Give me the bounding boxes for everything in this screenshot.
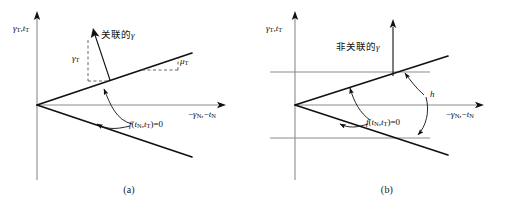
figure-container: γT,tT −γN,−tN 关联的γ γT μT f(tN,tT)=0 (a): [0, 0, 516, 215]
panel-b-graphic: [258, 0, 516, 215]
gamma-t-label-a: γT: [72, 54, 80, 64]
upper-yield-line-a: [37, 53, 192, 105]
yield-leader-upper-b: [350, 88, 370, 120]
non-associated-flow-label-b: 非关联的γ: [336, 42, 380, 52]
x-axis-label-a: −γN,−tN: [188, 110, 216, 120]
panel-b-caption: (b): [258, 184, 516, 195]
mu-t-label-a: μT: [180, 57, 189, 67]
upper-yield-line-b: [295, 56, 448, 105]
yield-leader-upper-a: [104, 89, 132, 124]
flow-direction-arrowhead-b: [390, 19, 396, 28]
associated-flow-label-a: 关联的γ: [101, 30, 135, 40]
h-leader-lower-b: [418, 97, 428, 135]
yield-function-label-a: f(tN,tT)=0: [129, 120, 163, 130]
panel-a-caption: (a): [0, 184, 258, 195]
x-axis-arrowhead-b: [475, 102, 484, 108]
x-axis-arrowhead-a: [217, 102, 226, 108]
yield-leader-lower-a: [97, 124, 130, 128]
panel-a: γT,tT −γN,−tN 关联的γ γT μT f(tN,tT)=0 (a): [0, 0, 258, 215]
x-axis-label-b: −γN,−tN: [446, 110, 474, 120]
lower-yield-line-a: [37, 105, 192, 157]
panel-b: γT,tT −γN,−tN 非关联的γ h f(tN,tT)=0 (b): [258, 0, 516, 215]
h-label-b: h: [430, 90, 435, 99]
y-axis-label-a: γT,tT: [13, 24, 29, 34]
lower-yield-line-b: [295, 105, 448, 155]
h-leader-upper-b: [405, 73, 424, 95]
flow-direction-arrow-a: [95, 35, 110, 80]
y-axis-label-b: γT,tT: [266, 24, 282, 34]
yield-function-label-b: f(tN,tT)=0: [366, 118, 400, 128]
